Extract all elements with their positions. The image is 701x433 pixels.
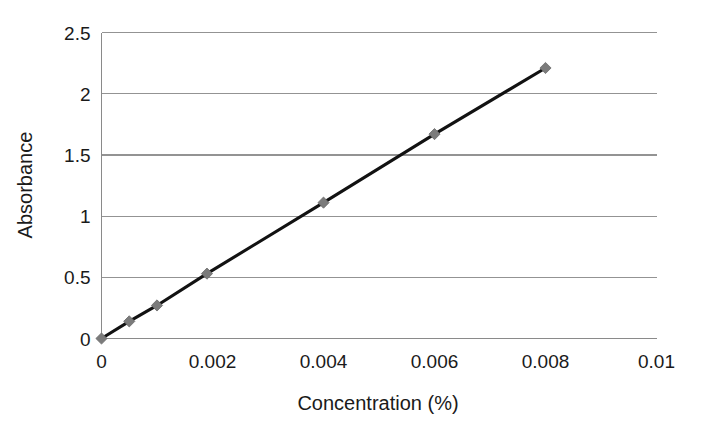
y-tick-label: 2.5 xyxy=(64,23,90,44)
y-tick-label: 0.5 xyxy=(64,267,90,288)
x-axis-title: Concentration (%) xyxy=(297,392,458,414)
y-tick-label: 0 xyxy=(80,329,91,350)
y-tick-label: 2 xyxy=(80,84,91,105)
y-tick-label: 1.5 xyxy=(64,145,90,166)
calibration-line-chart: 00.511.522.5 00.0020.0040.0060.0080.01 C… xyxy=(0,0,701,433)
x-tick-label: 0.008 xyxy=(522,351,570,372)
y-axis-title: Absorbance xyxy=(14,132,36,239)
x-tick-label: 0.002 xyxy=(189,351,237,372)
x-tick-label: 0.006 xyxy=(411,351,459,372)
chart-container: 00.511.522.5 00.0020.0040.0060.0080.01 C… xyxy=(0,0,701,433)
x-tick-label: 0.004 xyxy=(300,351,348,372)
x-tick-label: 0 xyxy=(96,351,107,372)
y-tick-label: 1 xyxy=(80,206,91,227)
x-tick-label: 0.01 xyxy=(638,351,675,372)
